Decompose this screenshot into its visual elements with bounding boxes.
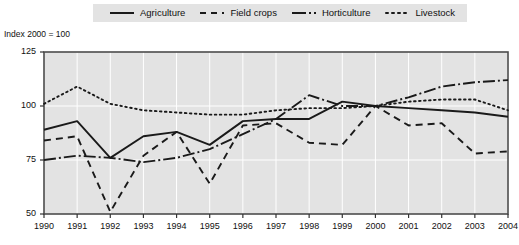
- dash-dot-line-key-icon: [291, 8, 317, 18]
- chart-container: Agriculture Field crops Horticulture Liv…: [0, 0, 519, 245]
- y-axis-tick-label: 125: [6, 46, 36, 56]
- legend-label-horticulture: Horticulture: [322, 8, 371, 18]
- x-axis-tick-label: 2004: [488, 221, 519, 231]
- solid-line-key-icon: [109, 8, 135, 18]
- y-axis-tick-label: 100: [6, 100, 36, 110]
- chart-plot-area: [0, 0, 519, 245]
- legend-item-livestock[interactable]: Livestock: [384, 8, 455, 18]
- y-axis-tick-label: 50: [6, 208, 36, 218]
- y-axis-tick-label: 75: [6, 154, 36, 164]
- legend-label-agriculture: Agriculture: [140, 8, 185, 18]
- legend-item-agriculture[interactable]: Agriculture: [109, 8, 185, 18]
- legend-label-livestock: Livestock: [415, 8, 455, 18]
- legend-item-horticulture[interactable]: Horticulture: [291, 8, 371, 18]
- dotted-line-key-icon: [384, 8, 410, 18]
- y-axis-title: Index 2000 = 100: [4, 29, 70, 39]
- legend-label-field-crops: Field crops: [230, 8, 276, 18]
- legend-item-field-crops[interactable]: Field crops: [199, 8, 276, 18]
- chart-legend: Agriculture Field crops Horticulture Liv…: [93, 4, 467, 22]
- dashed-line-key-icon: [199, 8, 225, 18]
